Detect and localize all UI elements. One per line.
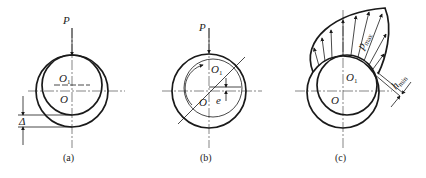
journal-center-label: O1 [59,72,71,86]
caption-a: (a) [63,152,74,164]
bearing-center-label: O [60,93,68,105]
caption-b: (b) [200,152,212,164]
caption-c: (c) [335,152,346,164]
eccentricity-label: e [216,94,221,106]
load-label: P [62,14,70,26]
panel-a: P O1 O Δ (a) [18,14,125,164]
panel-c: O1 O pmax hmin (c) [295,8,411,164]
hmin-arrow-bottom [391,96,400,107]
journal-center-label: O1 [211,63,223,77]
pressure-arrows [314,12,386,69]
clearance-label: Δ [18,115,25,127]
panel-b: P O1 O e (b) [162,21,262,164]
journal-bearing-diagram: P O1 O Δ (a) P O1 O e (b) [0,0,426,178]
load-label: P [198,21,206,33]
pmax-label: pmax [354,29,375,52]
bearing-center-label: O [199,96,207,108]
bearing-center-label: O [331,94,339,106]
journal-circle [317,55,377,115]
journal-center-label: O1 [346,71,358,85]
